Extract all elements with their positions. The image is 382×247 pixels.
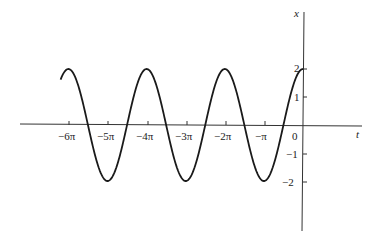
- x-axis-label: x: [293, 7, 299, 19]
- chart: −6π −5π −4π −3π −2π −π 0 2 1 −1 −2 x t: [0, 0, 382, 247]
- tick-label-negpi: −π: [255, 130, 267, 142]
- tick-label-neg3pi: −3π: [175, 130, 193, 142]
- t-axis-label: t: [356, 128, 360, 140]
- tick-label-neg1: −1: [286, 148, 298, 160]
- tick-label-neg2pi: −2π: [214, 130, 232, 142]
- t-axis: [20, 124, 362, 126]
- tick-label-1: 1: [294, 91, 300, 103]
- tick-label-neg6pi: −6π: [58, 130, 76, 142]
- tick-label-neg2: −2: [282, 176, 294, 188]
- x-axis: [302, 12, 304, 231]
- tick-label-zero: 0: [292, 130, 298, 142]
- tick-label-neg4pi: −4π: [136, 130, 154, 142]
- tick-label-neg5pi: −5π: [97, 130, 115, 142]
